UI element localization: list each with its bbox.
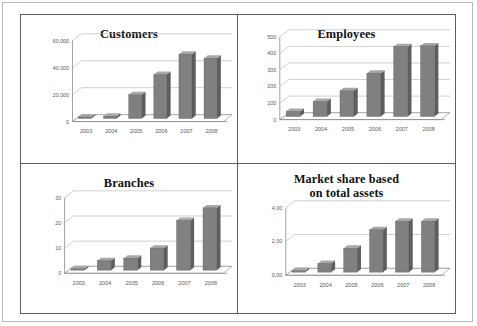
svg-text:10: 10 (55, 245, 61, 251)
svg-text:2004: 2004 (105, 128, 117, 134)
svg-text:0: 0 (58, 270, 61, 276)
svg-text:0: 0 (66, 119, 69, 125)
svg-text:2006: 2006 (155, 128, 167, 134)
svg-text:400: 400 (267, 50, 276, 56)
svg-text:2006: 2006 (152, 280, 164, 286)
svg-text:20.000: 20.000 (53, 92, 69, 98)
chart-panel-employees[interactable]: Employees 010020030040050020032004200520… (238, 15, 455, 164)
svg-text:2004: 2004 (99, 280, 111, 286)
svg-text:100: 100 (267, 100, 276, 106)
svg-text:2003: 2003 (73, 280, 85, 286)
svg-text:2006: 2006 (371, 282, 383, 288)
chart-panel-grid: Customers 020.00040.00060.00020032004200… (20, 14, 456, 314)
svg-text:200: 200 (267, 83, 276, 89)
svg-text:20: 20 (55, 220, 61, 226)
chart-panel-branches[interactable]: Branches 0102030200320042005200620072008 (21, 164, 238, 313)
svg-text:4,00: 4,00 (272, 205, 282, 211)
svg-text:2007: 2007 (180, 128, 192, 134)
chart-plot-customers: 020.00040.00060.000200320042005200620072… (21, 15, 237, 163)
svg-text:0,00: 0,00 (272, 272, 282, 278)
chart-panel-market-share[interactable]: Market share based on total assets 0,002… (238, 164, 455, 313)
svg-text:2003: 2003 (294, 282, 306, 288)
svg-text:2007: 2007 (396, 126, 408, 132)
svg-text:2008: 2008 (205, 128, 217, 134)
chart-plot-employees: 0100200300400500200320042005200620072008 (238, 15, 455, 163)
svg-text:2004: 2004 (315, 126, 327, 132)
svg-text:2005: 2005 (345, 282, 357, 288)
svg-text:2004: 2004 (319, 282, 331, 288)
svg-text:2008: 2008 (205, 280, 217, 286)
chart-plot-market-share: 0,002,004,00200320042005200620072008 (238, 164, 455, 313)
svg-text:2005: 2005 (130, 128, 142, 134)
svg-text:2,00: 2,00 (272, 238, 282, 244)
svg-text:2007: 2007 (178, 280, 190, 286)
svg-text:30: 30 (55, 195, 61, 201)
svg-text:2006: 2006 (369, 126, 381, 132)
svg-text:2008: 2008 (422, 126, 434, 132)
figure-canvas: Customers 020.00040.00060.00020032004200… (0, 0, 477, 326)
svg-text:60.000: 60.000 (53, 38, 69, 44)
svg-text:500: 500 (267, 34, 276, 40)
svg-text:2005: 2005 (342, 126, 354, 132)
svg-text:2008: 2008 (423, 282, 435, 288)
svg-text:0: 0 (273, 117, 276, 123)
svg-text:2003: 2003 (288, 126, 300, 132)
svg-text:300: 300 (267, 67, 276, 73)
svg-text:2007: 2007 (397, 282, 409, 288)
svg-text:40.000: 40.000 (53, 65, 69, 71)
svg-text:2003: 2003 (80, 128, 92, 134)
chart-panel-customers[interactable]: Customers 020.00040.00060.00020032004200… (21, 15, 238, 164)
svg-text:2005: 2005 (125, 280, 137, 286)
chart-plot-branches: 0102030200320042005200620072008 (21, 164, 237, 313)
